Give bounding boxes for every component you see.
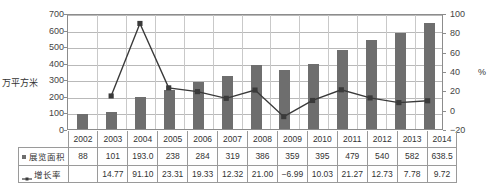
y-tick-left: 300 (38, 76, 64, 85)
legend-item-growth: 增长率 (19, 165, 69, 182)
plot-area (67, 14, 443, 130)
line-data-marker (339, 87, 344, 92)
legend-label-growth: 增长率 (34, 170, 61, 180)
table-cell-value: 319 (218, 148, 248, 165)
table-cell-value: −6.99 (277, 165, 307, 182)
table-cell-value: 582 (397, 148, 427, 165)
y-tick-right: 80 (450, 29, 480, 38)
y-tick-mark-right (443, 111, 446, 112)
table-cell-value: 193.0 (128, 148, 158, 165)
table-header-year: 2006 (188, 131, 218, 148)
chart-figure: 万平方米 % 7006005004003002001000 1008060402… (0, 0, 493, 190)
y-tick-right: 100 (450, 10, 480, 19)
line-data-marker (281, 114, 286, 119)
table-header-year: 2007 (218, 131, 248, 148)
table-row-growth: 增长率 14.7791.1023.3119.3312.3221.00−6.991… (19, 165, 457, 182)
table-header-year: 2009 (277, 131, 307, 148)
table-row-header: 2002200320042005200620072008200920102011… (19, 131, 457, 148)
square-marker-icon (22, 155, 26, 159)
y-tick-right: 40 (450, 68, 480, 77)
y-tick-left: 500 (38, 43, 64, 52)
table-cell-value (68, 165, 98, 182)
table-header-year: 2012 (367, 131, 397, 148)
table-cell-value: 23.31 (158, 165, 188, 182)
y-tick-right: 20 (450, 87, 480, 96)
line-data-marker (396, 100, 401, 105)
table-header-year: 2002 (68, 131, 98, 148)
growth-rate-line (111, 23, 427, 116)
table-header-year: 2013 (397, 131, 427, 148)
y-tick-left: 100 (38, 109, 64, 118)
table-cell-value: 101 (98, 148, 128, 165)
line-series (68, 15, 442, 129)
legend-item-area: 展览面积 (19, 148, 69, 165)
line-data-marker (310, 98, 315, 103)
table-header-year: 2010 (307, 131, 337, 148)
line-data-marker (224, 96, 229, 101)
line-data-marker (109, 93, 114, 98)
line-data-marker (195, 89, 200, 94)
table-header-year: 2011 (337, 131, 367, 148)
y-tick-right: 60 (450, 49, 480, 58)
y-tick-left: 200 (38, 93, 64, 102)
table-cell-value: 386 (248, 148, 278, 165)
y-tick-left: 400 (38, 60, 64, 69)
table-header-year: 2008 (248, 131, 278, 148)
line-data-marker (137, 21, 142, 26)
line-data-marker (367, 95, 372, 100)
table-cell-value: 91.10 (128, 165, 158, 182)
table-header-year: 2014 (427, 131, 457, 148)
table-cell-value: 9.72 (427, 165, 457, 182)
line-data-marker (425, 98, 430, 103)
y-tick-left: 600 (38, 27, 64, 36)
table-header-year: 2005 (158, 131, 188, 148)
y-tick-mark-right (443, 53, 446, 54)
table-cell-value: 238 (158, 148, 188, 165)
table-row-area: 展览面积 88101193.02382843193863593954795405… (19, 148, 457, 165)
table-cell-value: 540 (367, 148, 397, 165)
y-tick-right: 0 (450, 107, 480, 116)
data-table: 2002200320042005200620072008200920102011… (18, 131, 457, 183)
legend-label-area: 展览面积 (29, 152, 65, 162)
table-cell-value: 479 (337, 148, 367, 165)
table-cell-value: 21.00 (248, 165, 278, 182)
table-cell-value: 21.27 (337, 165, 367, 182)
header-corner-cell (19, 131, 69, 148)
line-marker-icon (22, 173, 32, 177)
table-cell-value: 14.77 (98, 165, 128, 182)
y-tick-mark-right (443, 14, 446, 15)
y-tick-mark-right (443, 91, 446, 92)
table-cell-value: 12.73 (367, 165, 397, 182)
table-cell-value: 10.03 (307, 165, 337, 182)
y-tick-mark-right (443, 72, 446, 73)
table-cell-value: 638.5 (427, 148, 457, 165)
table-cell-value: 12.32 (218, 165, 248, 182)
table-cell-value: 19.33 (188, 165, 218, 182)
table-cell-value: 7.78 (397, 165, 427, 182)
table-cell-value: 359 (277, 148, 307, 165)
y-tick-mark-right (443, 33, 446, 34)
y-tick-left: 700 (38, 10, 64, 19)
table-header-year: 2003 (98, 131, 128, 148)
table-cell-value: 88 (68, 148, 98, 165)
line-data-marker (166, 85, 171, 90)
line-data-marker (252, 87, 257, 92)
table-cell-value: 284 (188, 148, 218, 165)
table-cell-value: 395 (307, 148, 337, 165)
table-header-year: 2004 (128, 131, 158, 148)
